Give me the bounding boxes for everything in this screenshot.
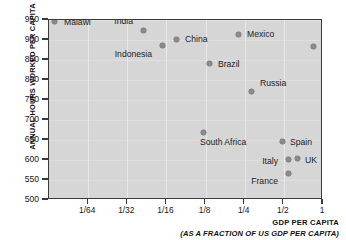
data-point-label: Indonesia	[115, 50, 152, 59]
data-point-label: UK	[305, 156, 317, 165]
data-point-label: France	[251, 177, 278, 186]
x-axis-tick-mark	[321, 199, 322, 204]
y-axis-tick-label: 750	[0, 95, 39, 104]
data-point-label: Spain	[290, 138, 312, 147]
data-point[interactable]	[286, 171, 291, 176]
data-point-label: China	[185, 35, 207, 44]
data-point[interactable]	[207, 61, 212, 66]
x-axis-tick-mark	[282, 199, 283, 204]
vertical-gridline	[284, 20, 285, 198]
x-axis-tick-label: 1/4	[224, 206, 264, 214]
horizontal-gridline	[49, 100, 321, 101]
horizontal-gridline	[49, 120, 321, 121]
data-point-label: Malawi	[64, 19, 91, 27]
data-point-label: Mexico	[247, 30, 274, 39]
y-axis-tick-label: 600	[0, 155, 39, 164]
y-axis-tick-label: 700	[0, 115, 39, 124]
x-axis-tick-label: 1/16	[145, 206, 185, 214]
data-point-label: South Africa	[200, 138, 246, 147]
y-axis-tick-label: 550	[0, 175, 39, 184]
x-axis-title: GDP PER CAPITA	[0, 218, 339, 227]
vertical-gridline	[127, 20, 128, 198]
x-axis-tick-label: 1/32	[106, 206, 146, 214]
y-axis-tick-label: 900	[0, 35, 39, 44]
data-point-label: Italy	[262, 157, 278, 166]
horizontal-gridline	[49, 180, 321, 181]
x-axis-tick-label: 1/64	[67, 206, 107, 214]
data-point[interactable]	[286, 157, 291, 162]
x-axis-tick-mark	[126, 199, 127, 204]
data-point[interactable]	[141, 28, 146, 33]
x-axis-tick-mark	[204, 199, 205, 204]
data-point[interactable]	[236, 32, 241, 37]
vertical-gridline	[206, 20, 207, 198]
scatter-chart-figure: ANNUAL HOURS WORKED PER CAPITA 950900850…	[0, 0, 346, 240]
data-point-label: Russia	[260, 79, 286, 88]
data-point[interactable]	[311, 44, 316, 49]
x-axis-tick-label: 1/2	[263, 206, 303, 214]
data-point-label: India	[114, 19, 133, 26]
y-axis-tick-label: 850	[0, 55, 39, 64]
x-axis-tick-mark	[87, 199, 88, 204]
horizontal-gridline	[49, 60, 321, 61]
data-point[interactable]	[160, 43, 165, 48]
y-axis-tick-label: 500	[0, 195, 39, 204]
data-point[interactable]	[295, 156, 300, 161]
horizontal-gridline	[49, 160, 321, 161]
x-axis-tick-label: 1	[302, 206, 342, 214]
x-axis-tick-label: 1/8	[185, 206, 225, 214]
y-axis-title: ANNUAL HOURS WORKED PER CAPITA	[28, 0, 37, 172]
plot-area: MalawiIndiaIndonesiaChinaBrazilMexicoRus…	[48, 19, 322, 199]
data-point[interactable]	[174, 37, 179, 42]
y-axis-tick-label: 800	[0, 75, 39, 84]
y-axis-tick-label: 950	[0, 15, 39, 24]
data-point[interactable]	[249, 89, 254, 94]
x-axis-tick-mark	[243, 199, 244, 204]
vertical-gridline	[166, 20, 167, 198]
x-axis-tick-mark	[165, 199, 166, 204]
vertical-gridline	[245, 20, 246, 198]
vertical-gridline	[88, 20, 89, 198]
y-axis-tick-label: 650	[0, 135, 39, 144]
data-point[interactable]	[52, 19, 57, 24]
data-point[interactable]	[201, 130, 206, 135]
x-axis-subtitle: (AS A FRACTION OF US GDP PER CAPITA)	[0, 229, 339, 238]
data-point[interactable]	[280, 139, 285, 144]
data-point-label: Brazil	[218, 60, 240, 69]
